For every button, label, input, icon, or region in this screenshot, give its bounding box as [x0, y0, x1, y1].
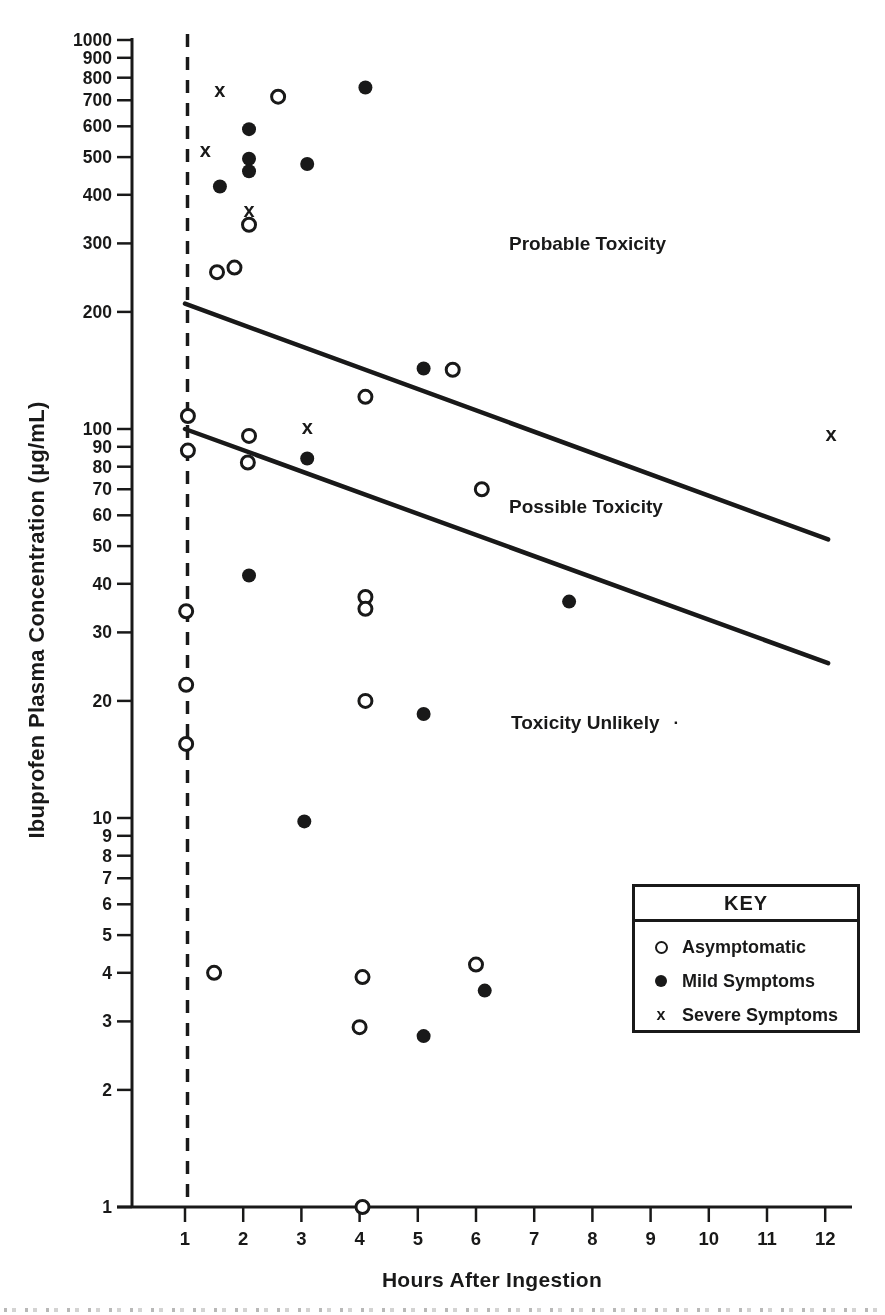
x-marker-icon: x	[651, 1007, 671, 1023]
open-circle-marker-icon	[651, 941, 671, 954]
y-tick-label: 600	[83, 116, 112, 136]
filled-circle-marker-icon	[651, 975, 671, 987]
x-tick-label: 3	[296, 1228, 306, 1249]
point-mild-symptoms	[562, 595, 576, 609]
point-asymptomatic	[180, 605, 193, 618]
x-tick-label: 10	[699, 1228, 720, 1249]
probable-toxicity-boundary-line	[185, 304, 828, 540]
point-severe-symptoms: x	[214, 79, 225, 101]
y-tick-label: 50	[93, 536, 113, 556]
point-asymptomatic	[208, 966, 221, 979]
point-asymptomatic	[228, 261, 241, 274]
cropped-caption-fragment	[4, 1308, 881, 1312]
point-asymptomatic	[241, 456, 254, 469]
legend-key-box: KEY Asymptomatic Mild Symptoms x Severe …	[632, 884, 860, 1033]
point-severe-symptoms: x	[302, 416, 313, 438]
y-tick-label: 900	[83, 48, 112, 68]
x-tick-label: 8	[587, 1228, 597, 1249]
x-tick-label: 9	[645, 1228, 655, 1249]
legend-label-mild-symptoms: Mild Symptoms	[682, 971, 815, 992]
region-label-toxicity-unlikely-text: Toxicity Unlikely	[511, 712, 660, 734]
y-tick-label: 500	[83, 147, 112, 167]
x-tick-label: 5	[413, 1228, 423, 1249]
region-label-possible-toxicity: Possible Toxicity	[509, 496, 663, 518]
point-mild-symptoms	[478, 984, 492, 998]
y-tick-label: 200	[83, 302, 112, 322]
point-asymptomatic	[272, 90, 285, 103]
x-axis-title: Hours After Ingestion	[132, 1268, 852, 1292]
y-tick-label: 7	[102, 868, 112, 888]
y-tick-label: 400	[83, 185, 112, 205]
point-mild-symptoms	[300, 157, 314, 171]
point-asymptomatic	[181, 409, 194, 422]
legend-row-asymptomatic: Asymptomatic	[651, 930, 857, 964]
legend-label-severe-symptoms: Severe Symptoms	[682, 1005, 838, 1026]
stray-dot-mark: ·	[674, 713, 680, 733]
point-asymptomatic	[470, 958, 483, 971]
x-tick-label: 1	[180, 1228, 190, 1249]
point-asymptomatic	[243, 429, 256, 442]
point-severe-symptoms: x	[243, 199, 254, 221]
point-asymptomatic	[356, 971, 369, 984]
point-asymptomatic	[356, 1201, 369, 1214]
y-axis-title: Ibuprofen Plasma Concentration (µg/mL)	[24, 401, 50, 838]
region-label-toxicity-unlikely: Toxicity Unlikely ·	[511, 712, 679, 734]
y-tick-label: 90	[93, 437, 113, 457]
point-asymptomatic	[359, 390, 372, 403]
point-asymptomatic	[211, 266, 224, 279]
y-tick-label: 70	[93, 479, 113, 499]
x-tick-label: 11	[757, 1228, 777, 1249]
y-tick-label: 80	[93, 457, 113, 477]
point-mild-symptoms	[242, 569, 256, 583]
x-tick-label: 6	[471, 1228, 481, 1249]
point-mild-symptoms	[417, 1029, 431, 1043]
point-severe-symptoms: x	[825, 423, 836, 445]
x-tick-label: 2	[238, 1228, 248, 1249]
y-tick-label: 9	[102, 826, 112, 846]
legend-title: KEY	[635, 887, 857, 922]
y-tick-label: 3	[102, 1011, 112, 1031]
y-tick-label: 5	[102, 925, 112, 945]
y-tick-label: 6	[102, 894, 112, 914]
x-tick-label: 12	[815, 1228, 836, 1249]
legend-row-severe-symptoms: x Severe Symptoms	[651, 998, 857, 1032]
point-mild-symptoms	[417, 707, 431, 721]
point-asymptomatic	[446, 363, 459, 376]
point-mild-symptoms	[358, 80, 372, 94]
y-tick-label: 60	[93, 505, 113, 525]
legend-label-asymptomatic: Asymptomatic	[682, 937, 806, 958]
y-tick-label: 30	[93, 622, 113, 642]
point-severe-symptoms: x	[200, 139, 211, 161]
point-asymptomatic	[359, 602, 372, 615]
point-mild-symptoms	[242, 152, 256, 166]
point-asymptomatic	[353, 1021, 366, 1034]
y-tick-label: 8	[102, 846, 112, 866]
y-tick-label: 300	[83, 233, 112, 253]
y-tick-label: 1	[102, 1197, 112, 1217]
point-mild-symptoms	[242, 164, 256, 178]
point-asymptomatic	[181, 444, 194, 457]
y-tick-label: 800	[83, 68, 112, 88]
y-tick-label: 4	[102, 963, 112, 983]
point-mild-symptoms	[242, 122, 256, 136]
y-tick-label: 20	[93, 691, 113, 711]
scatter-plot-canvas: 1000900800700600500400300200100908070605…	[0, 0, 885, 1315]
y-tick-label: 2	[102, 1080, 112, 1100]
y-tick-label: 700	[83, 90, 112, 110]
x-tick-label: 4	[354, 1228, 365, 1249]
point-mild-symptoms	[297, 814, 311, 828]
x-tick-label: 7	[529, 1228, 539, 1249]
legend-row-mild-symptoms: Mild Symptoms	[651, 964, 857, 998]
point-asymptomatic	[180, 678, 193, 691]
point-mild-symptoms	[300, 451, 314, 465]
legend-items: Asymptomatic Mild Symptoms x Severe Symp…	[635, 922, 857, 1032]
region-label-probable-toxicity: Probable Toxicity	[509, 233, 666, 255]
point-asymptomatic	[475, 483, 488, 496]
point-mild-symptoms	[213, 180, 227, 194]
point-asymptomatic	[180, 737, 193, 750]
possible-toxicity-boundary-line	[185, 429, 828, 663]
y-tick-label: 40	[93, 574, 113, 594]
point-asymptomatic	[359, 694, 372, 707]
point-mild-symptoms	[417, 362, 431, 376]
nomogram-figure: 1000900800700600500400300200100908070605…	[0, 0, 885, 1315]
